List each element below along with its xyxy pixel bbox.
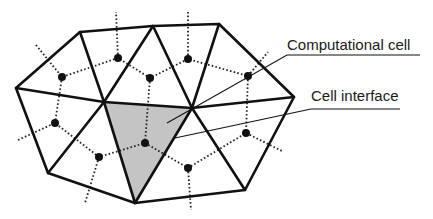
- cell-interface-label: Cell interface: [311, 88, 399, 103]
- computational-cell-shaded: [104, 102, 192, 203]
- mesh-diagram: [0, 0, 433, 219]
- computational-cell-label: Computational cell: [287, 37, 410, 52]
